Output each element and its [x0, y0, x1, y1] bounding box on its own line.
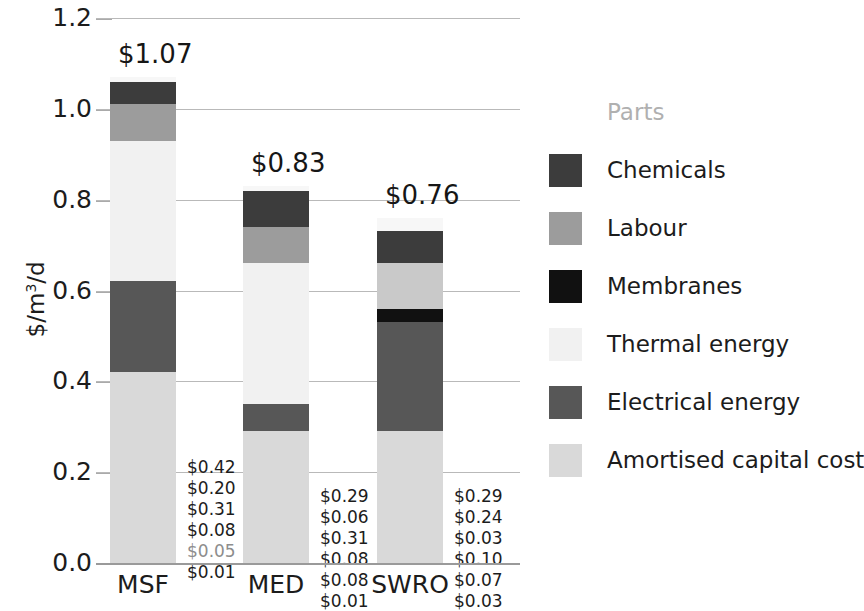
legend-label: Electrical energy	[607, 386, 800, 419]
legend-item[interactable]: Amortised capital cost	[549, 436, 817, 494]
legend-item[interactable]: Membranes	[549, 262, 817, 320]
segment-value-label: $0.06	[320, 509, 369, 526]
bar-total-label: $1.07	[118, 41, 192, 67]
x-tick-label-med: MED	[216, 572, 336, 597]
bar-segment[interactable]	[110, 82, 176, 105]
bar-segment[interactable]	[243, 227, 309, 263]
segment-value-label: $0.24	[454, 509, 503, 526]
legend-swatch-icon	[549, 386, 582, 419]
segment-value-label: $0.05	[187, 543, 236, 560]
legend-swatch-icon	[549, 212, 582, 245]
legend-label: Amortised capital cost	[607, 444, 864, 477]
y-tick-label: 0.6	[0, 278, 92, 303]
y-tick-label: 0.4	[0, 368, 92, 393]
x-axis-line	[96, 563, 520, 565]
legend-label: Parts	[607, 96, 664, 129]
legend-swatch-icon	[549, 270, 582, 303]
segment-value-label: $0.42	[187, 459, 236, 476]
segment-value-label: $0.29	[454, 488, 503, 505]
legend-swatch-icon	[549, 444, 582, 477]
bar-segment[interactable]	[243, 191, 309, 227]
y-tick-label: 1.2	[0, 5, 92, 30]
legend-label: Thermal energy	[607, 328, 789, 361]
bar-total-label: $0.76	[385, 182, 459, 208]
bar-segment[interactable]	[243, 186, 309, 191]
bar-segment[interactable]	[377, 231, 443, 263]
bar-segment[interactable]	[377, 309, 443, 323]
legend-item[interactable]: Electrical energy	[549, 378, 817, 436]
chart-legend: PartsChemicalsLabourMembranesThermal ene…	[549, 88, 817, 494]
bar-segment[interactable]	[243, 431, 309, 563]
legend-item[interactable]: Parts	[549, 88, 817, 146]
bar-segment[interactable]	[377, 218, 443, 232]
bar-med[interactable]	[243, 186, 309, 563]
bar-msf[interactable]	[110, 77, 176, 563]
bar-segment[interactable]	[243, 263, 309, 404]
bar-segment[interactable]	[110, 372, 176, 563]
bar-total-label: $0.83	[251, 150, 325, 176]
bar-segment[interactable]	[110, 141, 176, 282]
y-tick-label: 0.8	[0, 187, 92, 212]
segment-value-label: $0.03	[454, 530, 503, 547]
x-tick-label-swro: SWRO	[350, 572, 470, 597]
bar-swro[interactable]	[377, 218, 443, 563]
segment-value-label: $0.20	[187, 480, 236, 497]
y-tick-label: 0.0	[0, 550, 92, 575]
gridline	[96, 18, 520, 19]
legend-swatch-icon	[549, 154, 582, 187]
bar-segment[interactable]	[377, 322, 443, 431]
legend-swatch-icon	[549, 96, 582, 129]
segment-value-label: $0.10	[454, 551, 503, 568]
plot-area	[96, 18, 520, 563]
segment-value-label: $0.31	[187, 501, 236, 518]
legend-swatch-icon	[549, 328, 582, 361]
legend-label: Labour	[607, 212, 687, 245]
x-tick-label-msf: MSF	[83, 572, 203, 597]
legend-item[interactable]: Labour	[549, 204, 817, 262]
legend-label: Chemicals	[607, 154, 726, 187]
y-tick-label: 1.0	[0, 96, 92, 121]
bar-segment[interactable]	[110, 104, 176, 140]
bar-segment[interactable]	[377, 431, 443, 563]
legend-item[interactable]: Thermal energy	[549, 320, 817, 378]
segment-value-label: $0.31	[320, 530, 369, 547]
legend-label: Membranes	[607, 270, 742, 303]
bar-segment[interactable]	[243, 404, 309, 431]
segment-value-label: $0.08	[187, 522, 236, 539]
y-tick-label: 0.2	[0, 459, 92, 484]
segment-value-label: $0.08	[320, 551, 369, 568]
bar-segment[interactable]	[110, 77, 176, 82]
segment-value-label: $0.29	[320, 488, 369, 505]
bar-segment[interactable]	[110, 281, 176, 372]
legend-item[interactable]: Chemicals	[549, 146, 817, 204]
bar-segment[interactable]	[377, 263, 443, 308]
